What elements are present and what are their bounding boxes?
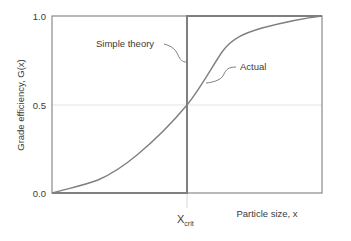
xcrit-label: Xcrit bbox=[177, 213, 194, 227]
chart: 1.0 0.5 0.0 Grade efficiency, G(x) Parti… bbox=[0, 0, 351, 241]
x-axis-label: Particle size, x bbox=[236, 208, 297, 219]
y-axis-label: Grade efficiency, G(x) bbox=[15, 59, 26, 151]
ytick-1: 1.0 bbox=[33, 11, 46, 22]
xcrit-subscript: crit bbox=[184, 220, 193, 227]
simple-theory-label: Simple theory bbox=[96, 38, 154, 49]
actual-label: Actual bbox=[240, 61, 266, 72]
ytick-05: 0.5 bbox=[33, 100, 46, 111]
simple-theory-leader bbox=[164, 44, 186, 62]
ytick-0: 0.0 bbox=[33, 188, 46, 199]
